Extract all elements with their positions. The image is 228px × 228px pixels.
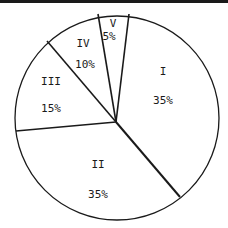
slice-i-name: I bbox=[160, 65, 167, 78]
pie-chart: I 35% II 35% III 15% IV 10% V 5% bbox=[0, 0, 228, 228]
slice-iv-pct: 10% bbox=[75, 58, 95, 71]
slice-i-pct: 35% bbox=[153, 94, 173, 107]
slice-iii-pct: 15% bbox=[41, 102, 61, 115]
slice-ii-name: II bbox=[91, 158, 104, 171]
slice-v-name: V bbox=[110, 17, 117, 30]
slice-v-pct: 5% bbox=[102, 30, 116, 43]
slice-iii-name: III bbox=[41, 75, 61, 88]
slice-iv-name: IV bbox=[76, 37, 90, 50]
slice-ii-pct: 35% bbox=[88, 188, 108, 201]
